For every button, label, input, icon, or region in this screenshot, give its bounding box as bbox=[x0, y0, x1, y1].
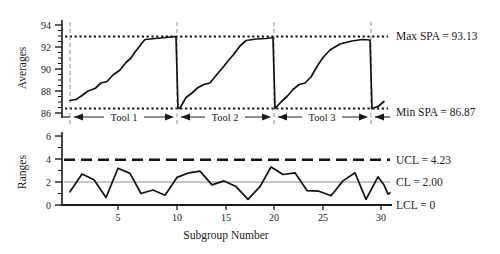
tool2-arrow-right bbox=[262, 114, 271, 121]
lcl-label: LCL = 0 bbox=[396, 199, 436, 211]
ranges-axis-title: Ranges bbox=[16, 155, 29, 189]
xtick-15: 15 bbox=[221, 212, 231, 223]
tool2-arrow-left bbox=[181, 114, 190, 121]
ranges-chart: 6 4 2 0 Ranges 5 10 1 bbox=[16, 131, 451, 242]
xaxis-title: Subgroup Number bbox=[183, 229, 268, 242]
averages-chart: 94 92 90 88 86 Averages bbox=[16, 20, 478, 124]
xtick-25: 25 bbox=[318, 212, 328, 223]
averages-ytick-88: 88 bbox=[41, 86, 51, 97]
control-chart-figure: 94 92 90 88 86 Averages bbox=[0, 0, 500, 254]
ucl-label: UCL = 4.23 bbox=[396, 154, 451, 166]
tool1-label: Tool 1 bbox=[111, 112, 138, 123]
ranges-data-line bbox=[70, 167, 390, 199]
averages-data-line bbox=[70, 37, 384, 109]
ranges-ytick-0: 0 bbox=[46, 200, 51, 211]
xtick-5: 5 bbox=[116, 212, 121, 223]
averages-ytick-86: 86 bbox=[41, 108, 51, 119]
xtick-20: 20 bbox=[269, 212, 279, 223]
averages-ytick-92: 92 bbox=[41, 42, 51, 53]
min-spa-label: Min SPA = 86.87 bbox=[396, 106, 476, 118]
averages-ytick-94: 94 bbox=[41, 20, 51, 31]
tool-band-row: Tool 1 Tool 2 Tool 3 bbox=[62, 110, 390, 123]
ranges-ytick-2: 2 bbox=[46, 177, 51, 188]
tool2-label: Tool 2 bbox=[212, 112, 239, 123]
ranges-ytick-6: 6 bbox=[46, 131, 51, 142]
averages-ytick-90: 90 bbox=[41, 64, 51, 75]
tool3-arrow-left bbox=[278, 114, 287, 121]
max-spa-label: Max SPA = 93.13 bbox=[396, 30, 478, 42]
ranges-ytick-4: 4 bbox=[46, 154, 51, 165]
tool3-arrow-tail bbox=[375, 114, 384, 121]
tool3-label: Tool 3 bbox=[309, 112, 336, 123]
tool1-arrow-right bbox=[165, 114, 174, 121]
xtick-10: 10 bbox=[172, 212, 182, 223]
averages-axis-title: Averages bbox=[16, 46, 29, 89]
tool1-arrow-left bbox=[74, 114, 83, 121]
chart-canvas: 94 92 90 88 86 Averages bbox=[0, 0, 500, 254]
averages-y-major-ticks bbox=[55, 25, 62, 113]
xtick-30: 30 bbox=[376, 212, 386, 223]
tool3-arrow-right bbox=[359, 114, 368, 121]
cl-label: CL = 2.00 bbox=[396, 176, 443, 188]
